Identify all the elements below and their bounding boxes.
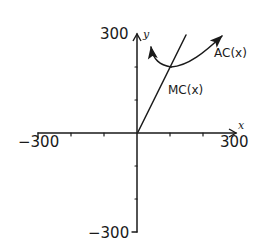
y-max-label: 300 (100, 25, 129, 43)
ac-label: AC(x) (214, 46, 247, 60)
cost-curves-diagram: 300 y AC(x) MC(x) x −300 300 −300 (0, 0, 261, 252)
ac-curve (151, 47, 171, 67)
mc-label: MC(x) (168, 83, 203, 97)
x-max-label: 300 (220, 133, 249, 151)
x-min-label: −300 (18, 133, 59, 151)
y-axis-name: y (142, 28, 150, 41)
x-axis-name: x (238, 119, 245, 132)
y-min-label: −300 (88, 224, 129, 242)
